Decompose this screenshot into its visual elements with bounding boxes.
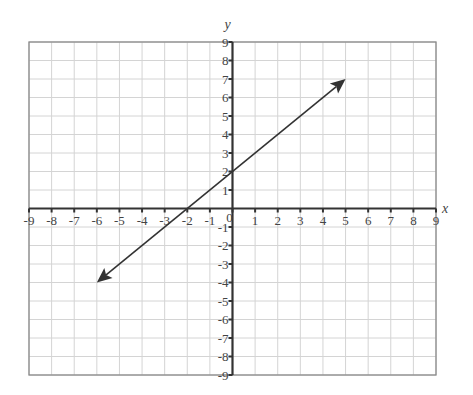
x-tick-label: -8 (46, 213, 57, 228)
x-tick-label: 5 (342, 213, 349, 228)
y-tick-label: 6 (222, 90, 229, 105)
y-axis-label: y (223, 17, 232, 32)
x-tick-label: -3 (159, 213, 170, 228)
y-tick-label: -9 (218, 368, 229, 383)
y-tick-label: -4 (218, 275, 229, 290)
arrowhead-start-icon (97, 268, 113, 283)
x-tick-label: -5 (114, 213, 125, 228)
y-tick-label: 7 (222, 72, 229, 87)
x-tick-label: 3 (297, 213, 304, 228)
x-tick-label: -7 (69, 213, 80, 228)
x-tick-label: 7 (388, 213, 395, 228)
origin-label: 0 (226, 210, 233, 225)
x-tick-label: -1 (204, 213, 215, 228)
x-tick-label: 2 (274, 213, 281, 228)
y-tick-label: 9 (222, 35, 229, 50)
y-tick-label: -5 (218, 294, 229, 309)
y-tick-label: 4 (222, 127, 229, 142)
x-tick-label: 6 (365, 213, 372, 228)
x-tick-label: 1 (252, 213, 259, 228)
x-tick-label: -9 (24, 213, 35, 228)
x-tick-label: -6 (91, 213, 102, 228)
y-tick-label: 5 (222, 109, 229, 124)
x-tick-label: 4 (320, 213, 327, 228)
y-tick-label: 3 (222, 146, 229, 161)
arrowhead-end-icon (330, 79, 346, 94)
y-tick-label: 8 (222, 53, 229, 68)
y-tick-label: -2 (218, 238, 229, 253)
x-tick-label: 8 (410, 213, 417, 228)
y-tick-label: -6 (218, 312, 229, 327)
y-tick-label: -7 (218, 331, 229, 346)
x-axis-label: x (441, 201, 449, 216)
x-tick-label: -2 (182, 213, 193, 228)
axes (29, 42, 436, 375)
y-tick-label: -3 (218, 257, 229, 272)
y-tick-label: 1 (222, 183, 229, 198)
x-tick-label: -4 (137, 213, 148, 228)
y-tick-label: -8 (218, 349, 229, 364)
coordinate-plane: -9-8-7-6-5-4-3-2-1123456789-9-8-7-6-5-4-… (0, 0, 473, 395)
x-tick-label: 9 (433, 213, 440, 228)
